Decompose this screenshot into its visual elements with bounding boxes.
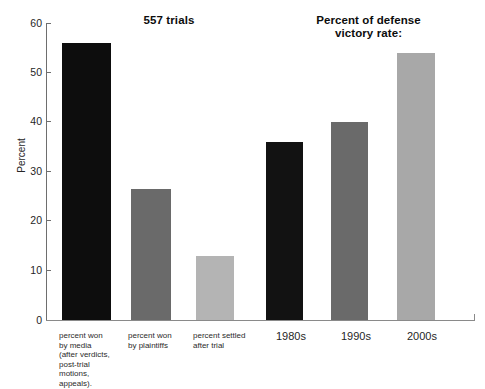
bar-percent-won-by-media xyxy=(62,43,111,320)
category-label-percent-won-by-plaintiffs: percent won by plaintiffs xyxy=(128,331,190,350)
bar-percent-settled-after-trial xyxy=(196,256,234,320)
y-tick-label-20: 20 xyxy=(0,215,42,225)
y-tick-label-30: 30 xyxy=(0,166,42,176)
right-panel-title-line2: victory rate: xyxy=(335,27,402,39)
bar-2000s xyxy=(397,53,435,320)
y-tick-label-40: 40 xyxy=(0,116,42,126)
category-label-2000s: 2000s xyxy=(387,330,457,342)
x-axis-line xyxy=(46,320,475,321)
y-tick-label-60: 60 xyxy=(0,18,42,28)
category-label-1990s: 1990s xyxy=(321,330,391,342)
right-panel-title-line1: Percent of defense xyxy=(316,14,421,26)
category-label-1980s: 1980s xyxy=(256,330,326,342)
x-axis-end-tick xyxy=(474,314,475,321)
right-panel-title: Percent of defense victory rate: xyxy=(281,14,456,40)
bar-percent-won-by-plaintiffs xyxy=(131,189,171,320)
y-tick-30 xyxy=(46,171,51,172)
bar-1990s xyxy=(331,122,368,320)
y-tick-60 xyxy=(46,23,51,24)
y-tick-50 xyxy=(46,72,51,73)
y-tick-label-10: 10 xyxy=(0,265,42,275)
y-tick-10 xyxy=(46,270,51,271)
y-tick-40 xyxy=(46,121,51,122)
left-panel-title: 557 trials xyxy=(104,14,234,27)
y-tick-label-50: 50 xyxy=(0,67,42,77)
y-axis-label: Percent xyxy=(16,116,27,196)
y-tick-label-0: 0 xyxy=(0,315,42,325)
category-label-percent-settled-after-trial: percent settled after trial xyxy=(193,331,259,350)
y-tick-20 xyxy=(46,220,51,221)
bar-1980s xyxy=(266,142,303,320)
category-label-percent-won-by-media: percent won by media (after verdicts, po… xyxy=(59,331,127,389)
